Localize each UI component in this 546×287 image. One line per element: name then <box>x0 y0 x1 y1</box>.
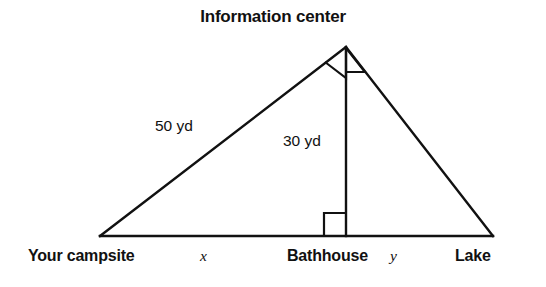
lake-label: Lake <box>455 248 491 264</box>
base-segment-y-label: y <box>390 248 397 264</box>
bathhouse-label: Bathhouse <box>287 248 368 264</box>
apex-left-right-angle-icon <box>325 48 346 78</box>
triangle-diagram-canvas <box>0 0 546 287</box>
base-right-angle-icon <box>324 213 346 236</box>
apex-right-right-angle-icon <box>346 48 365 72</box>
hypotenuse-length-label: 50 yd <box>155 118 193 134</box>
segment-information-center-to-lake <box>346 47 493 236</box>
geometry-diagram-figure: Information center 50 yd 30 yd Your camp… <box>0 0 546 287</box>
base-segment-x-label: x <box>200 248 207 264</box>
altitude-length-label: 30 yd <box>283 133 321 149</box>
information-center-label: Information center <box>0 8 546 25</box>
your-campsite-label: Your campsite <box>28 248 134 264</box>
